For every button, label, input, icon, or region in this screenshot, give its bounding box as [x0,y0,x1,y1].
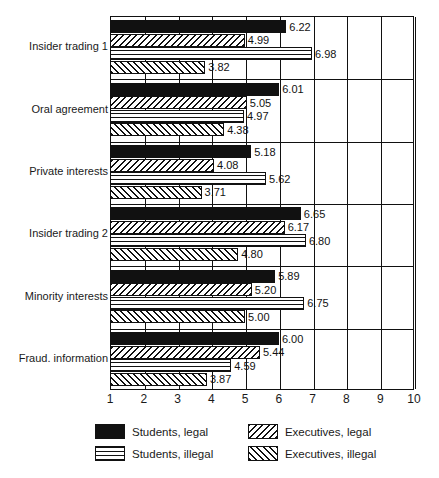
bar-row: 6.65 [110,207,414,220]
x-tick-6: 6 [276,393,283,405]
bar-executives-legal [110,283,252,296]
bar-value-label: 5.00 [245,311,269,322]
bar-value-label: 4.80 [238,249,262,260]
bar-students-legal [110,20,286,33]
legend-swatch-icon [248,446,278,461]
bar-row: 5.18 [110,145,414,158]
bar-students-illegal [110,47,312,60]
bar-executives-legal [110,34,245,47]
x-tick-2: 2 [140,393,147,405]
bar-value-label: 5.05 [247,97,271,108]
legend-label: Students, legal [132,426,208,438]
bar-executives-legal [110,221,285,234]
bar-executives-illegal [110,61,205,74]
bar-value-label: 5.20 [252,284,276,295]
legend-item[interactable]: Students, legal [95,424,232,439]
bar-executives-legal [110,159,214,172]
legend-label: Students, illegal [132,448,213,460]
category-separator [111,329,413,330]
bar-value-label: 3.71 [202,187,226,198]
bar-value-label: 3.82 [205,62,229,73]
legend-label: Executives, legal [285,426,371,438]
bar-value-label: 4.99 [245,35,269,46]
bar-students-illegal [110,172,266,185]
bar-row: 5.62 [110,172,414,185]
bar-executives-legal [110,96,247,109]
bar-value-label: 6.98 [312,48,336,59]
bar-chart: Insider trading 1Oral agreementPrivate i… [0,0,439,478]
category-separator [111,142,413,143]
bar-executives-illegal [110,123,224,136]
x-tick-10: 10 [407,393,420,405]
x-tick-4: 4 [208,393,215,405]
bar-value-label: 3.87 [207,374,231,385]
bar-students-legal [110,332,279,345]
x-tick-5: 5 [242,393,249,405]
category-label: Insider trading 2 [29,228,108,239]
bar-students-legal [110,145,251,158]
bar-value-label: 6.65 [301,208,325,219]
bar-value-label: 5.18 [251,146,275,157]
bar-value-label: 5.44 [260,347,284,358]
bar-executives-illegal [110,248,238,261]
bar-students-legal [110,83,279,96]
bar-row: 6.98 [110,47,414,60]
bar-value-label: 6.80 [306,235,330,246]
x-tick-8: 8 [343,393,350,405]
bar-value-label: 5.89 [275,271,299,282]
bar-row: 6.22 [110,20,414,33]
bar-row: 4.08 [110,159,414,172]
bar-row: 5.44 [110,346,414,359]
legend-swatch-icon [95,424,125,439]
bar-value-label: 6.17 [285,222,309,233]
bar-row: 5.20 [110,283,414,296]
x-tick-1: 1 [107,393,114,405]
bar-row: 4.97 [110,110,414,123]
bar-row: 3.82 [110,61,414,74]
legend-item[interactable]: Executives, legal [248,424,395,439]
category-label: Oral agreement [32,104,108,115]
bar-value-label: 4.97 [244,111,268,122]
bar-executives-illegal [110,373,207,386]
bar-students-legal [110,270,275,283]
bar-value-label: 6.22 [286,21,310,32]
bar-row: 5.00 [110,310,414,323]
bar-row: 4.38 [110,123,414,136]
legend-swatch-icon [248,424,278,439]
bar-students-illegal [110,359,231,372]
bar-students-illegal [110,297,304,310]
bar-value-label: 6.75 [304,298,328,309]
category-separator [111,79,413,80]
gridline-10 [415,17,416,389]
legend-item[interactable]: Executives, illegal [248,446,395,461]
legend-item[interactable]: Students, illegal [95,446,232,461]
bar-value-label: 4.38 [224,124,248,135]
bar-row: 5.89 [110,270,414,283]
legend-label: Executives, illegal [285,448,376,460]
bar-students-legal [110,207,301,220]
bar-row: 4.80 [110,248,414,261]
bar-row: 4.59 [110,359,414,372]
bar-row: 6.17 [110,221,414,234]
category-separator [111,204,413,205]
bar-row: 6.80 [110,234,414,247]
category-label: Fraud. information [19,353,108,364]
bar-value-label: 5.62 [266,173,290,184]
legend-swatch-icon [95,446,125,461]
x-tick-7: 7 [309,393,316,405]
bar-row: 4.99 [110,34,414,47]
category-label: Insider trading 1 [29,41,108,52]
bar-executives-legal [110,346,260,359]
category-label: Minority interests [25,291,108,302]
category-label: Private interests [29,166,108,177]
bar-row: 6.01 [110,83,414,96]
bar-students-illegal [110,234,306,247]
bar-value-label: 4.59 [231,360,255,371]
bar-students-illegal [110,110,244,123]
bar-row: 3.87 [110,373,414,386]
x-tick-9: 9 [377,393,384,405]
bar-row: 3.71 [110,186,414,199]
bar-executives-illegal [110,186,202,199]
bar-executives-illegal [110,310,245,323]
bar-value-label: 6.01 [279,84,303,95]
